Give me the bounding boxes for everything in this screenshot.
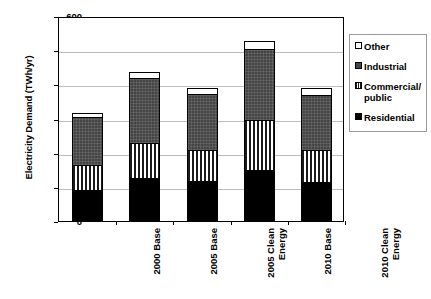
x-axis-tick-mark: [231, 221, 232, 225]
segment-commercial-public[interactable]: [73, 166, 102, 190]
legend-item[interactable]: Industrial: [355, 61, 423, 72]
legend-item-label: Commercial/ public: [364, 81, 421, 103]
segment-residential[interactable]: [302, 183, 331, 220]
x-axis-tick-mark: [173, 221, 174, 225]
segment-industrial[interactable]: [302, 96, 331, 151]
legend-item[interactable]: Other: [355, 41, 423, 52]
legend-swatch-industrial-icon: [355, 62, 362, 69]
segment-commercial-public[interactable]: [302, 151, 331, 183]
legend-item[interactable]: Commercial/ public: [355, 81, 423, 103]
legend-item-label: Other: [364, 41, 389, 52]
chart-legend: OtherIndustrialCommercial/ publicResiden…: [349, 34, 427, 132]
segment-industrial[interactable]: [245, 50, 274, 121]
x-axis-tick-label: 2000 Base: [151, 228, 167, 298]
stacked-bar[interactable]: [301, 88, 332, 221]
stacked-bar[interactable]: [244, 41, 275, 221]
stacked-bar[interactable]: [72, 113, 103, 221]
segment-industrial[interactable]: [73, 118, 102, 166]
x-axis-tick-mark: [345, 221, 346, 225]
bar-slot: [129, 18, 160, 221]
legend-item-label: Residential: [364, 112, 415, 123]
x-axis-tick-label: 2005 Base: [208, 228, 224, 298]
legend-item[interactable]: Residential: [355, 112, 423, 123]
segment-residential[interactable]: [130, 179, 159, 220]
segment-other[interactable]: [302, 89, 331, 96]
segment-industrial[interactable]: [130, 79, 159, 144]
legend-swatch-commercial-icon: [355, 82, 362, 89]
x-axis-tick-label: 2010 Base: [322, 228, 338, 298]
x-axis-tick-label: 2010 Clean Energy: [379, 228, 395, 298]
x-axis-tick-label: 2005 Clean Energy: [265, 228, 281, 298]
y-axis-title: Electricity Demand (TWh/yr): [23, 23, 34, 213]
stacked-bar[interactable]: [129, 72, 160, 221]
segment-residential[interactable]: [188, 182, 217, 220]
plot-area: [58, 17, 344, 222]
legend-item-label: Industrial: [364, 61, 407, 72]
y-axis-tick-mark: [54, 222, 58, 223]
stacked-bar-chart: Electricity Demand (TWh/yr) 010020030040…: [0, 0, 431, 299]
segment-industrial[interactable]: [188, 95, 217, 151]
segment-commercial-public[interactable]: [245, 121, 274, 171]
bar-slot: [72, 18, 103, 221]
stacked-bar[interactable]: [187, 88, 218, 221]
segment-residential[interactable]: [73, 191, 102, 221]
segment-commercial-public[interactable]: [188, 151, 217, 182]
segment-other[interactable]: [245, 42, 274, 50]
x-axis-tick-mark: [288, 221, 289, 225]
bar-slot: [187, 18, 218, 221]
bar-slot: [244, 18, 275, 221]
legend-swatch-residential-icon: [355, 113, 362, 120]
x-axis-tick-mark: [116, 221, 117, 225]
segment-commercial-public[interactable]: [130, 144, 159, 179]
legend-swatch-other-icon: [355, 42, 362, 49]
segment-residential[interactable]: [245, 171, 274, 220]
bar-slot: [301, 18, 332, 221]
